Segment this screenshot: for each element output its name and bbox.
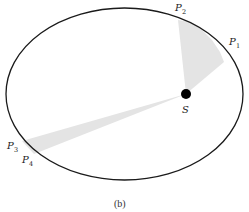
label-p2: P 2 — [174, 2, 186, 16]
label-p4: P 4 — [21, 154, 33, 168]
svg-text:P: P — [174, 2, 182, 13]
figure-caption: (b) — [114, 198, 126, 210]
label-p3: P 3 — [6, 140, 18, 154]
kepler-second-law-diagram: S P 1 P 2 P 3 P 4 (b) — [0, 0, 249, 212]
svg-text:4: 4 — [29, 160, 33, 168]
svg-text:P: P — [21, 154, 29, 165]
svg-text:3: 3 — [14, 146, 18, 154]
swept-area-p3-p4 — [22, 94, 186, 154]
svg-text:P: P — [6, 140, 14, 151]
svg-text:1: 1 — [236, 42, 240, 50]
elliptical-orbit — [6, 8, 243, 180]
sun-dot — [181, 89, 191, 99]
svg-text:P: P — [228, 36, 236, 47]
svg-text:2: 2 — [182, 8, 186, 16]
swept-area-p1-p2 — [178, 20, 224, 94]
label-p1: P 1 — [228, 36, 240, 50]
sun-label: S — [182, 104, 189, 115]
